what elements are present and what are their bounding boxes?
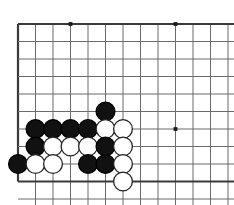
black-stone-c0-r8[interactable] [9, 155, 28, 174]
white-stone-c5-r6[interactable] [96, 120, 115, 139]
star-point-marker [174, 127, 178, 131]
white-stone-c6-r6[interactable] [114, 120, 133, 139]
black-stone-c5-r7[interactable] [96, 137, 115, 156]
white-stone-c1-r8[interactable] [26, 155, 45, 174]
white-stone-c6-r9[interactable] [114, 172, 133, 191]
black-stone-c5-r5[interactable] [96, 102, 115, 121]
black-stone-c1-r6[interactable] [26, 120, 45, 139]
white-stone-c2-r7[interactable] [44, 137, 63, 156]
black-stone-c2-r6[interactable] [44, 120, 63, 139]
star-point-marker [69, 22, 73, 26]
go-board-diagram [0, 0, 234, 205]
black-stone-c1-r7[interactable] [26, 137, 45, 156]
white-stone-c6-r8[interactable] [114, 155, 133, 174]
black-stone-c3-r6[interactable] [61, 120, 80, 139]
go-board-canvas[interactable] [0, 0, 234, 205]
white-stone-c2-r8[interactable] [44, 155, 63, 174]
black-stone-c5-r8[interactable] [96, 155, 115, 174]
black-stone-c4-r6[interactable] [79, 120, 98, 139]
white-stone-c6-r7[interactable] [114, 137, 133, 156]
white-stone-c4-r7[interactable] [79, 137, 98, 156]
star-point-marker [174, 22, 178, 26]
white-stone-c3-r7[interactable] [61, 137, 80, 156]
black-stone-c4-r8[interactable] [79, 155, 98, 174]
